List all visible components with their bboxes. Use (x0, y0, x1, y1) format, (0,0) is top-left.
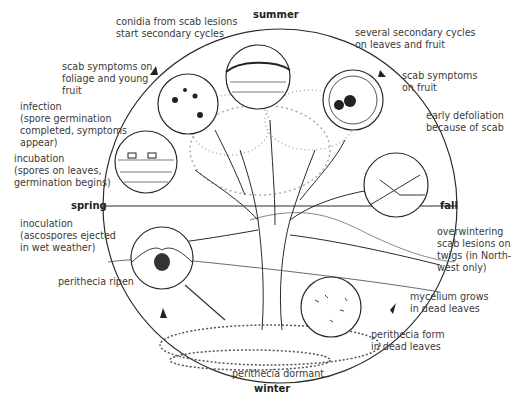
label-perithecia-dormant: perithecia dormant (232, 368, 324, 380)
cycle-arrow-icon (390, 303, 396, 314)
label-mycelium: mycelium grows in dead leaves (410, 291, 489, 315)
label-defoliation: early defoliation because of scab (426, 110, 504, 134)
label-incubation: incubation (spores on leaves, germinatio… (14, 153, 111, 189)
inset-conidia (226, 45, 290, 109)
cycle-arrow-icon (160, 308, 167, 318)
label-perithecia-form: perithecia form in dead leaves (371, 329, 445, 353)
hillside-upper (250, 213, 455, 262)
label-inoculation: inoculation (ascospores ejected in wet w… (20, 218, 116, 254)
inset-inoculation (131, 227, 193, 289)
inset-scab-foliage (158, 74, 218, 134)
label-infection: infection (spore germination completed, … (20, 101, 127, 149)
inset-scab-fruit (323, 70, 383, 130)
label-perithecia-ripen: perithecia ripen (58, 276, 134, 288)
label-conidia: conidia from scab lesions start secondar… (116, 16, 237, 40)
label-scab-foliage: scab symptoms on foliage and young fruit (62, 61, 152, 97)
season-winter: winter (254, 383, 290, 394)
cycle-arrow-icon (378, 70, 386, 77)
season-spring: spring (71, 200, 107, 211)
label-scab-fruit: scab symptoms on fruit (402, 70, 477, 94)
inset-overwintering-twig (364, 153, 428, 217)
pointer-line (185, 285, 225, 320)
tree-icon (160, 120, 440, 330)
label-secondary-cycles: several secondary cycles on leaves and f… (355, 27, 476, 51)
season-fall: fall (440, 200, 458, 211)
season-summer: summer (253, 9, 299, 20)
inset-perithecia-form (301, 277, 361, 337)
label-overwintering: overwintering scab lesions on twigs (in … (437, 226, 511, 274)
